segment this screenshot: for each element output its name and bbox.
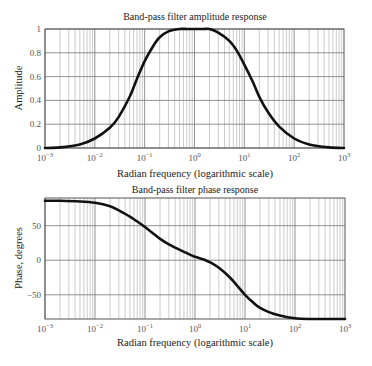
x-tick-label: 102: [289, 322, 301, 334]
x-tick-label: 10−2: [87, 322, 103, 334]
phase-y-ticks: 500−50: [27, 221, 42, 300]
x-tick-label: 101: [239, 322, 251, 334]
amplitude-x-label: Radian frequency (logarithmic scale): [117, 168, 273, 180]
x-tick-label: 103: [339, 322, 351, 334]
x-tick-label: 102: [288, 151, 300, 163]
y-tick-label: 0: [37, 255, 42, 265]
amplitude-plot: Band-pass filter amplitude response 00.2…: [13, 11, 350, 180]
phase-plot: Band-pass filter phase response 500−50 1…: [13, 184, 351, 349]
y-tick-label: 0.4: [30, 95, 42, 105]
phase-grid: [45, 198, 345, 319]
amplitude-x-ticks: 10−310−210−1100101102103: [37, 151, 350, 163]
y-tick-label: 50: [32, 221, 42, 231]
x-tick-label: 100: [188, 151, 200, 163]
bandpass-bode-figure: Band-pass filter amplitude response 00.2…: [0, 0, 372, 366]
y-tick-label: 0.6: [30, 72, 42, 82]
x-tick-label: 10−1: [137, 322, 153, 334]
amplitude-grid: [45, 29, 344, 148]
y-tick-label: 0.2: [30, 119, 41, 129]
amplitude-y-ticks: 00.20.40.60.81: [30, 24, 42, 153]
x-tick-label: 103: [338, 151, 350, 163]
x-tick-label: 10−3: [37, 151, 53, 163]
phase-x-ticks: 10−310−210−1100101102103: [37, 322, 351, 334]
phase-y-label: Phase, degrees: [13, 227, 24, 289]
amplitude-title: Band-pass filter amplitude response: [123, 11, 267, 22]
x-tick-label: 10−2: [87, 151, 103, 163]
y-tick-label: 0: [37, 143, 42, 153]
y-tick-label: 0.8: [30, 48, 42, 58]
x-tick-label: 10−1: [137, 151, 153, 163]
y-tick-label: 1: [37, 24, 42, 34]
x-tick-label: 100: [189, 322, 201, 334]
y-tick-label: −50: [27, 290, 42, 300]
phase-x-label: Radian frequency (logarithmic scale): [117, 337, 273, 349]
phase-title: Band-pass filter phase response: [132, 184, 259, 195]
x-tick-label: 101: [238, 151, 250, 163]
amplitude-y-label: Amplitude: [13, 65, 24, 110]
x-tick-label: 10−3: [37, 322, 53, 334]
